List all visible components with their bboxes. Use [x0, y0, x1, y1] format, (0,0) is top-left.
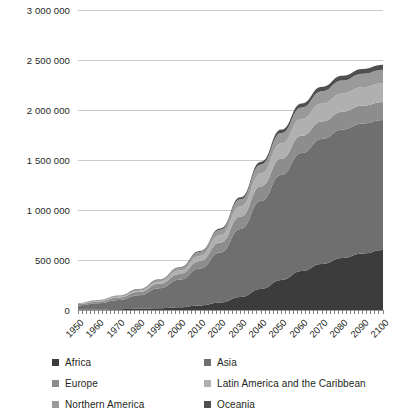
legend-label: Latin America and the Caribbean [217, 378, 366, 389]
legend-label: Oceania [217, 399, 255, 410]
stacked-area-chart: 0500 0001 000 0001 500 0002 000 0002 500… [0, 0, 394, 417]
y-tick-label: 1 500 000 [0, 155, 70, 166]
legend-item[interactable]: Northern America [52, 399, 204, 410]
legend-swatch-icon [52, 359, 59, 366]
chart-legend: AfricaAsiaEuropeLatin America and the Ca… [52, 352, 382, 415]
legend-item[interactable]: Africa [52, 357, 204, 368]
legend-item[interactable]: Europe [52, 378, 204, 389]
legend-swatch-icon [204, 359, 211, 366]
legend-item[interactable]: Latin America and the Caribbean [204, 378, 382, 389]
legend-item[interactable]: Asia [204, 357, 382, 368]
legend-swatch-icon [52, 401, 59, 408]
y-tick-label: 2 000 000 [0, 105, 70, 116]
y-tick-label: 500 000 [0, 255, 70, 266]
plot-svg [0, 0, 394, 345]
legend-item[interactable]: Oceania [204, 399, 382, 410]
legend-label: Africa [65, 357, 91, 368]
legend-swatch-icon [52, 380, 59, 387]
plot-area: 0500 0001 000 0001 500 0002 000 0002 500… [0, 0, 394, 345]
y-tick-label: 2 500 000 [0, 55, 70, 66]
y-tick-label: 3 000 000 [0, 5, 70, 16]
legend-label: Europe [65, 378, 98, 389]
legend-label: Northern America [65, 399, 144, 410]
legend-label: Asia [217, 357, 237, 368]
legend-swatch-icon [204, 401, 211, 408]
y-tick-label: 1 000 000 [0, 205, 70, 216]
y-tick-label: 0 [0, 305, 70, 316]
legend-swatch-icon [204, 380, 211, 387]
